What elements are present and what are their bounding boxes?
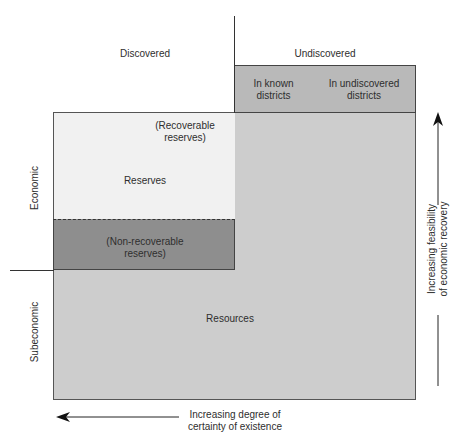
subeconomic-label: Subeconomic [29, 287, 41, 377]
certainty-axis-label: Increasing degree of certainty of existe… [180, 409, 290, 433]
non-recoverable-reserves-label: (Non-recoverable reserves) [90, 236, 200, 260]
feasibility-axis-label: Increasing feasibility of economic recov… [426, 189, 450, 309]
reserves-label: Reserves [100, 175, 190, 187]
recoverable-reserves-label: (Recoverable reserves) [130, 120, 240, 144]
discovered-header: Discovered [100, 48, 190, 60]
undiscovered-header: Undiscovered [275, 48, 375, 60]
economic-label: Economic [29, 148, 41, 228]
economic-subeconomic-divider [10, 270, 54, 271]
in-known-districts-label: In known districts [234, 78, 313, 102]
left-arrow-icon [54, 410, 184, 424]
in-undiscovered-districts-label: In undiscovered districts [312, 78, 416, 102]
resources-label: Resources [190, 313, 270, 325]
